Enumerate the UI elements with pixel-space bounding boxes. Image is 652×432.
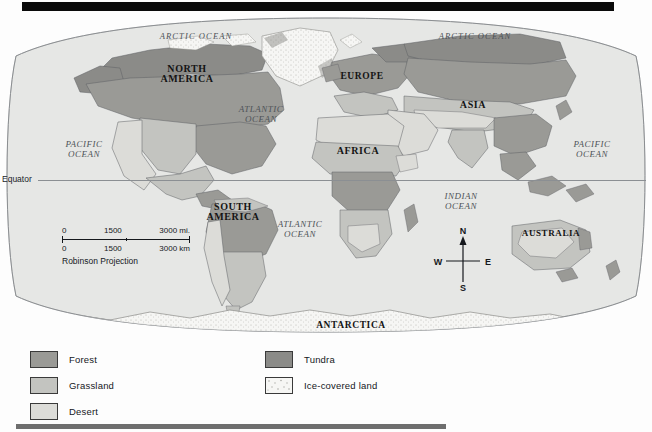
scale-miles-row: 0 1500 3000 mi. (62, 226, 190, 236)
scale-bar-graphic (62, 236, 190, 243)
scale-mi-tick-1: 1500 (104, 226, 122, 235)
svg-text:S: S (460, 283, 466, 292)
legend-column-right: Tundra Ice-covered land (265, 346, 377, 398)
legend-item-ice-covered-land[interactable]: Ice-covered land (265, 372, 377, 398)
top-rule (22, 2, 614, 11)
legend-item-desert[interactable]: Desert (30, 398, 114, 424)
legend-item-tundra[interactable]: Tundra (265, 346, 377, 372)
map-scale-bar: 0 1500 3000 mi. 0 1500 3000 km Robinson … (62, 226, 190, 266)
legend-swatch-desert (30, 403, 58, 420)
legend-label-tundra: Tundra (304, 354, 335, 365)
scale-km-row: 0 1500 3000 km (62, 243, 190, 253)
legend-swatch-forest (30, 351, 58, 368)
scale-km-tick-0: 0 (62, 244, 66, 253)
compass-rose: N S W E (432, 228, 494, 292)
world-map: Equator (0, 14, 652, 334)
svg-text:W: W (434, 257, 443, 267)
bottom-rule (16, 424, 446, 429)
equator-line (38, 180, 646, 181)
scale-km-tick-2: 3000 km (159, 244, 190, 253)
map-page: Equator ARCTIC OCEAN ARCTIC OCEAN ATLANT… (0, 0, 652, 432)
map-graphic (0, 14, 652, 334)
legend-label-ice-covered-land: Ice-covered land (304, 380, 377, 391)
legend-label-grassland: Grassland (69, 380, 114, 391)
equator-label: Equator (2, 174, 32, 184)
legend-swatch-tundra (265, 351, 293, 368)
scale-km-tick-1: 1500 (104, 244, 122, 253)
legend-label-desert: Desert (69, 406, 98, 417)
legend-item-grassland[interactable]: Grassland (30, 372, 114, 398)
legend-item-forest[interactable]: Forest (30, 346, 114, 372)
svg-text:E: E (485, 257, 491, 267)
ice-stipple-icon (266, 378, 292, 393)
scale-mi-tick-2: 3000 mi. (159, 226, 190, 235)
legend-column-left: Forest Grassland Desert (30, 346, 114, 424)
svg-text:N: N (460, 228, 467, 236)
legend-label-forest: Forest (69, 354, 97, 365)
projection-label: Robinson Projection (62, 256, 190, 266)
legend-swatch-ice-covered-land (265, 377, 293, 394)
scale-mi-tick-0: 0 (62, 226, 66, 235)
legend-swatch-grassland (30, 377, 58, 394)
compass-icon: N S W E (432, 228, 494, 292)
